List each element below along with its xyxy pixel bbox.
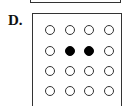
empty-circle-icon <box>104 66 114 76</box>
previous-option-box <box>30 0 121 3</box>
empty-circle-icon <box>84 86 94 96</box>
filled-circle-icon <box>65 46 75 56</box>
empty-circle-icon <box>45 86 55 96</box>
empty-circle-icon <box>84 66 94 76</box>
empty-circle-icon <box>104 86 114 96</box>
empty-circle-icon <box>65 86 75 96</box>
empty-circle-icon <box>104 25 114 35</box>
empty-circle-icon <box>65 66 75 76</box>
empty-circle-icon <box>45 25 55 35</box>
empty-circle-icon <box>45 66 55 76</box>
filled-circle-icon <box>84 46 94 56</box>
option-label: D. <box>8 12 23 29</box>
empty-circle-icon <box>45 46 55 56</box>
empty-circle-icon <box>84 25 94 35</box>
empty-circle-icon <box>104 46 114 56</box>
empty-circle-icon <box>65 25 75 35</box>
dot-grid-box <box>32 13 122 106</box>
